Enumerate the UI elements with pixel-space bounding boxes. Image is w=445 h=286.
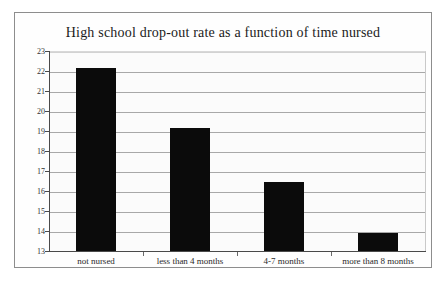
y-tick-mark [45, 211, 50, 212]
bar [358, 233, 398, 252]
x-tick-label: more than 8 months [342, 256, 414, 266]
y-tick-mark [45, 51, 50, 52]
y-tick-label: 15 [19, 207, 45, 216]
y-tick-label: 21 [19, 87, 45, 96]
y-tick-label: 22 [19, 67, 45, 76]
y-tick-mark [45, 231, 50, 232]
chart-title: High school drop-out rate as a function … [15, 25, 431, 41]
y-tick-label: 13 [19, 247, 45, 256]
gridline [49, 52, 425, 53]
y-tick-label: 16 [19, 187, 45, 196]
y-tick-label: 23 [19, 47, 45, 56]
y-tick-mark [45, 71, 50, 72]
y-tick-label: 14 [19, 227, 45, 236]
x-tick-label: 4-7 months [264, 256, 305, 266]
bar [76, 68, 116, 252]
plot-area [49, 51, 426, 252]
y-axis-tick-labels: 1314151617181920212223 [15, 13, 45, 267]
x-tick-label: less than 4 months [157, 256, 224, 266]
y-tick-mark [45, 91, 50, 92]
bar [264, 182, 304, 252]
y-tick-label: 17 [19, 167, 45, 176]
y-tick-label: 18 [19, 147, 45, 156]
y-tick-mark [45, 171, 50, 172]
chart-figure: High school drop-out rate as a function … [14, 12, 432, 268]
y-tick-mark [45, 251, 50, 252]
bar [170, 128, 210, 252]
y-tick-label: 19 [19, 127, 45, 136]
y-tick-mark [45, 151, 50, 152]
y-tick-mark [45, 111, 50, 112]
x-axis-tick-labels: not nursedless than 4 months4-7 monthsmo… [49, 256, 426, 274]
y-tick-mark [45, 191, 50, 192]
y-tick-mark [45, 131, 50, 132]
x-tick-label: not nursed [77, 256, 115, 266]
y-tick-label: 20 [19, 107, 45, 116]
